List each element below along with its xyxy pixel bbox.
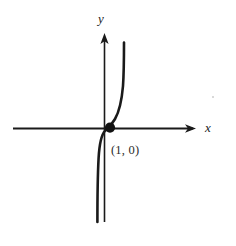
y-axis-label: y <box>98 12 104 25</box>
point-coordinate-label: (1, 0) <box>111 143 139 158</box>
marked-point-dot <box>105 123 115 133</box>
graph-figure: y x (1, 0) <box>0 0 236 246</box>
x-axis-label: x <box>205 121 211 134</box>
scan-artifact-speck <box>212 96 214 98</box>
coordinate-plot <box>0 0 236 246</box>
